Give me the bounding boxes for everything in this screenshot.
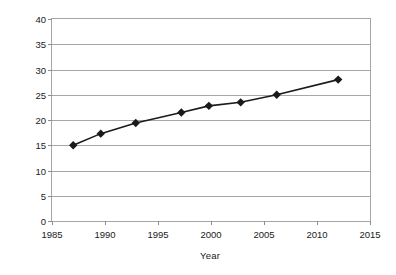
y-tick-label: 5 xyxy=(6,190,46,201)
chart-figure: Percent Minority 0510152025303540 198519… xyxy=(0,0,396,275)
y-tick-label: 0 xyxy=(6,216,46,227)
x-tick-label: 1990 xyxy=(94,229,115,240)
y-tick-label: 30 xyxy=(6,64,46,75)
x-tick-label: 2015 xyxy=(359,229,380,240)
x-tick-mark xyxy=(211,221,212,225)
plot-area: 0510152025303540 19851990199520002005201… xyxy=(51,18,371,222)
data-point-marker xyxy=(205,102,213,110)
x-tick-label: 1985 xyxy=(41,229,62,240)
x-tick-mark xyxy=(317,221,318,225)
data-point-marker xyxy=(236,98,244,106)
data-series xyxy=(52,19,370,221)
x-tick-mark xyxy=(264,221,265,225)
x-axis-title: Year xyxy=(45,250,375,261)
data-point-marker xyxy=(334,75,342,83)
data-point-marker xyxy=(132,119,140,127)
series-line xyxy=(73,80,338,146)
x-tick-mark xyxy=(158,221,159,225)
y-tick-label: 40 xyxy=(6,14,46,25)
x-tick-label: 2010 xyxy=(306,229,327,240)
y-tick-label: 25 xyxy=(6,89,46,100)
y-tick-label: 35 xyxy=(6,39,46,50)
x-tick-label: 2005 xyxy=(253,229,274,240)
y-tick-label: 15 xyxy=(6,140,46,151)
data-point-marker xyxy=(273,91,281,99)
y-tick-label: 20 xyxy=(6,115,46,126)
y-tick-label: 10 xyxy=(6,165,46,176)
data-point-marker xyxy=(69,141,77,149)
data-point-marker xyxy=(177,108,185,116)
x-tick-label: 2000 xyxy=(200,229,221,240)
x-tick-mark xyxy=(52,221,53,225)
x-tick-mark xyxy=(370,221,371,225)
x-tick-label: 1995 xyxy=(147,229,168,240)
x-tick-mark xyxy=(105,221,106,225)
data-point-marker xyxy=(97,129,105,137)
